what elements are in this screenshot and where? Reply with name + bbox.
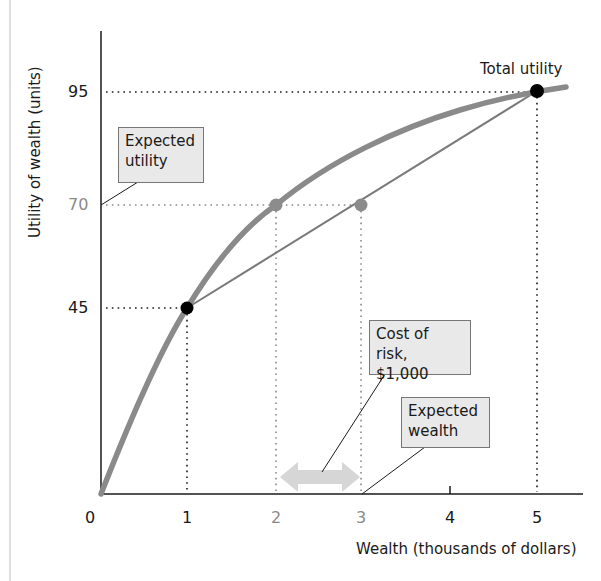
y-axis-label: Utility of wealth (units)	[26, 66, 44, 238]
x-tick-1: 1	[182, 508, 192, 527]
expected-wealth-pointer	[362, 447, 425, 494]
x-tick-3: 3	[356, 508, 366, 527]
expected-wealth-callout: Expected wealth	[401, 397, 490, 448]
y-tick-70: 70	[68, 195, 88, 214]
point-5-95	[530, 84, 544, 98]
cost-of-risk-callout: Cost of risk, $1,000	[369, 320, 471, 375]
total-utility-label: Total utility	[480, 60, 562, 78]
point-1-45	[181, 302, 194, 315]
point-2-70	[270, 199, 283, 212]
x-tick-2: 2	[271, 508, 281, 527]
cost-of-risk-double-arrow	[280, 462, 360, 492]
x-tick-5: 5	[532, 508, 542, 527]
point-3-70	[355, 199, 368, 212]
y-tick-95: 95	[68, 82, 88, 101]
y-tick-45: 45	[68, 298, 88, 317]
utility-chart	[0, 0, 601, 581]
expected-utility-pointer	[101, 182, 138, 205]
x-tick-4-label: 4	[445, 508, 455, 527]
x-axis-label: Wealth (thousands of dollars)	[356, 540, 577, 558]
cost-of-risk-pointer	[322, 374, 385, 472]
expected-utility-callout: Expected utility	[118, 127, 204, 183]
x-tick-0: 0	[85, 508, 95, 527]
